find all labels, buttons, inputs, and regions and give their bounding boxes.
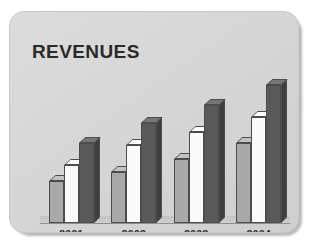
bar-front-face [141,123,156,223]
bar-side-face [281,79,287,223]
bar-front-face [251,117,266,223]
bar-groups [40,73,290,223]
bar-2001-light-gray-series [49,181,64,223]
bar-2001-white-series [64,165,79,223]
bar-side-face [94,137,100,223]
bar-front-face [64,165,79,223]
bar-side-face [219,99,225,223]
x-axis-line [40,223,290,224]
bar-front-face [49,181,64,223]
bar-2003-white-series [189,132,204,223]
bar-group-2003 [174,73,219,223]
chart-plot-area [40,72,290,224]
x-axis-labels: 2001200220032004 [40,225,290,233]
bar-2004-light-gray-series [236,143,251,223]
x-axis-label-2002: 2002 [104,228,164,233]
bar-front-face [126,145,141,223]
bar-2003-light-gray-series [174,159,189,223]
bar-side-face [156,117,162,223]
bar-2004-white-series [251,117,266,223]
bar-group-2004 [236,73,281,223]
bar-2002-white-series [126,145,141,223]
bar-front-face [266,85,281,223]
bar-group-2002 [111,73,156,223]
bar-front-face [79,143,94,223]
bar-front-face [189,132,204,223]
x-axis-label-2004: 2004 [229,228,289,233]
bar-2002-light-gray-series [111,172,126,223]
x-axis-label-2003: 2003 [166,228,226,233]
x-axis-label-2001: 2001 [41,228,101,233]
bar-front-face [174,159,189,223]
bar-2001-dark-gray-series [79,143,94,223]
bar-front-face [204,105,219,223]
bar-front-face [111,172,126,223]
screenshot-root: REVENUES 2001200220032004 [0,0,312,247]
bar-2004-dark-gray-series [266,85,281,223]
page-title: REVENUES [32,41,140,63]
bar-2002-dark-gray-series [141,123,156,223]
bar-front-face [236,143,251,223]
revenues-chart-card: REVENUES 2001200220032004 [9,11,299,233]
bar-group-2001 [49,73,94,223]
bar-2003-dark-gray-series [204,105,219,223]
